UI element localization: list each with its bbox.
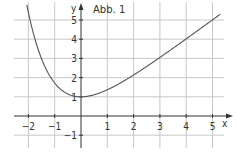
y-tick-label: 5 xyxy=(71,15,77,26)
y-tick-label: 4 xyxy=(71,34,77,45)
x-tick-label: 2 xyxy=(131,121,137,132)
y-tick-label: −1 xyxy=(64,130,77,141)
y-tick-label: 1 xyxy=(71,92,77,103)
x-tick-label: 3 xyxy=(157,121,163,132)
x-axis-label: x xyxy=(222,118,228,129)
axes xyxy=(14,3,233,148)
x-tick-label: 5 xyxy=(210,121,216,132)
y-tick-label: 2 xyxy=(71,73,77,84)
y-axis-arrow-icon xyxy=(79,3,84,10)
x-tick-label: 4 xyxy=(183,121,189,132)
x-tick-label: 1 xyxy=(104,121,110,132)
function-curve xyxy=(27,5,221,97)
figure-title: Abb. 1 xyxy=(93,4,125,15)
x-tick-label: −2 xyxy=(22,121,35,132)
x-tick-label: −1 xyxy=(48,121,61,132)
y-tick-label: 3 xyxy=(71,53,77,64)
function-graph: −2−112345−112345 Abb. 1 x y xyxy=(0,0,237,157)
y-axis-label: y xyxy=(71,3,77,14)
grid xyxy=(14,2,224,148)
